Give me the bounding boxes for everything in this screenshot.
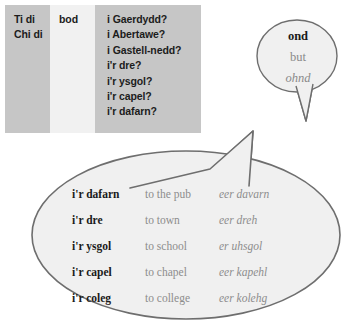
small-bubble-content: ond but ohnd [258, 26, 338, 89]
table-column-place: i Gaerdydd? i Abertawe? i Gastell-nedd? … [95, 5, 201, 133]
table-cell: i Gastell-nedd? [107, 43, 201, 58]
vocab-welsh: i'r dafarn [72, 188, 145, 200]
table-cell: Chi di [14, 27, 50, 42]
vocab-row: i'r dafarn to the pub eer davarn [72, 181, 322, 207]
table-cell: Ti di [14, 12, 50, 27]
vocab-pronunciation: eer kapehl [219, 266, 267, 278]
small-bubble-welsh: ond [258, 26, 338, 47]
vocab-pronunciation: er uhsgol [219, 240, 262, 252]
small-bubble-pronunciation: ohnd [258, 68, 338, 89]
vocab-pronunciation: eer kolehg [219, 292, 267, 304]
vocab-row: i'r ysgol to school er uhsgol [72, 233, 322, 259]
vocab-english: to town [145, 214, 219, 226]
table-column-verb: bod [50, 5, 95, 133]
large-bubble-content: i'r dafarn to the pub eer davarn i'r dre… [72, 181, 322, 311]
vocab-pronunciation: eer dreh [219, 214, 257, 226]
vocab-english: to chapel [145, 266, 219, 278]
table-cell: i'r dre? [107, 58, 201, 73]
vocab-english: to college [145, 292, 219, 304]
vocab-english: to school [145, 240, 219, 252]
table-cell: i'r ysgol? [107, 74, 201, 89]
vocab-row: i'r capel to chapel eer kapehl [72, 259, 322, 285]
vocab-pronunciation: eer davarn [219, 188, 269, 200]
vocab-welsh: i'r coleg [72, 292, 145, 304]
vocab-welsh: i'r ysgol [72, 240, 145, 252]
vocab-welsh: i'r dre [72, 214, 145, 226]
vocab-english: to the pub [145, 188, 219, 200]
table-cell: i Gaerdydd? [107, 12, 201, 27]
vocab-welsh: i'r capel [72, 266, 145, 278]
table-cell: i Abertawe? [107, 27, 201, 42]
table-column-subject: Ti di Chi di [5, 5, 50, 133]
small-bubble-english: but [258, 47, 338, 68]
sentence-pattern-table: Ti di Chi di bod i Gaerdydd? i Abertawe?… [5, 5, 201, 133]
vocab-row: i'r coleg to college eer kolehg [72, 285, 322, 311]
table-cell: i'r dafarn? [107, 104, 201, 119]
table-cell: bod [59, 12, 95, 27]
table-cell: i'r capel? [107, 89, 201, 104]
vocab-row: i'r dre to town eer dreh [72, 207, 322, 233]
